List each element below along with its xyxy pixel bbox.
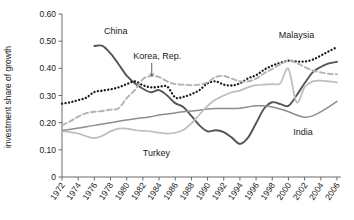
series-label-india: India — [293, 127, 313, 137]
series-label-turkey: Turkey — [143, 148, 171, 158]
y-tick-label: 0.60 — [39, 9, 56, 19]
series-annotations: ChinaMalaysiaKorea, Rep.IndiaTurkey — [104, 26, 314, 157]
series-label-korea-rep: Korea, Rep. — [133, 51, 181, 61]
x-tick-label: 1980 — [113, 180, 132, 201]
x-tick-label: 2002 — [291, 180, 310, 201]
y-tick-label: 0.10 — [39, 145, 56, 155]
y-tick-label: 0.50 — [39, 36, 56, 46]
y-tick-label: 0.30 — [39, 91, 56, 101]
x-tick-label: 1990 — [194, 180, 213, 201]
x-tick-label: 2004 — [307, 180, 326, 201]
series-label-china: China — [104, 26, 128, 36]
y-tick-label: 0 — [51, 172, 56, 182]
x-tick-label: 2006 — [323, 180, 342, 201]
chart-canvas: 00.100.200.300.400.500.60 19721974197619… — [0, 0, 354, 220]
x-tick-label: 1998 — [258, 180, 277, 201]
y-tick-label: 0.40 — [39, 63, 56, 73]
x-tick-label: 1976 — [80, 180, 99, 201]
x-axis: 1972197419761978198019821984198619881990… — [48, 177, 342, 202]
x-tick-label: 1988 — [177, 180, 196, 201]
y-tick-label: 0.20 — [39, 118, 56, 128]
x-tick-label: 2000 — [274, 180, 293, 201]
y-axis: 00.100.200.300.400.500.60 — [39, 9, 62, 182]
x-tick-label: 1974 — [64, 180, 83, 201]
x-tick-label: 1986 — [161, 180, 180, 201]
x-tick-label: 1972 — [48, 180, 67, 201]
y-axis-title: investment share of growth — [3, 46, 13, 148]
series-label-malaysia: Malaysia — [279, 30, 315, 40]
x-tick-label: 1992 — [210, 180, 229, 201]
x-tick-label: 1978 — [97, 180, 116, 201]
x-tick-label: 1982 — [129, 180, 148, 201]
investment-share-chart: 00.100.200.300.400.500.60 19721974197619… — [0, 0, 354, 220]
x-tick-label: 1994 — [226, 180, 245, 201]
x-tick-label: 1984 — [145, 180, 164, 201]
x-tick-label: 1996 — [242, 180, 261, 201]
